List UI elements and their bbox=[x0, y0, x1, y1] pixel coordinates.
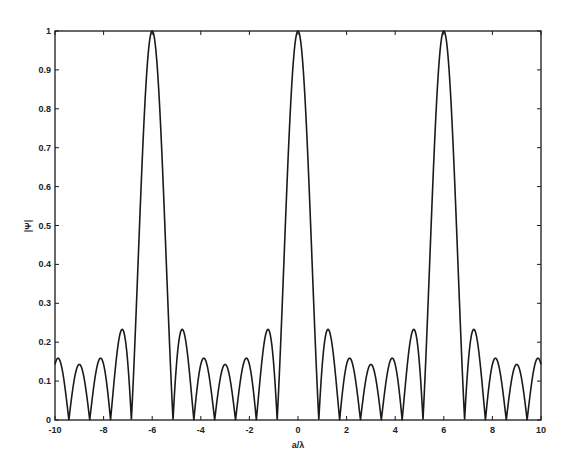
x-tick-label: -10 bbox=[48, 425, 61, 435]
x-tick-label: 2 bbox=[344, 425, 349, 435]
x-tick-label: 4 bbox=[393, 425, 398, 435]
y-tick-label: 0.3 bbox=[38, 298, 51, 308]
x-axis: -10-8-6-4-20246810 bbox=[48, 31, 546, 435]
chart: -10-8-6-4-20246810 00.10.20.30.40.50.60.… bbox=[0, 0, 571, 468]
y-axis: 00.10.20.30.40.50.60.70.80.91 bbox=[38, 26, 541, 425]
x-tick-label: 8 bbox=[490, 425, 495, 435]
x-axis-label: a/λ bbox=[292, 440, 305, 450]
y-tick-label: 0.2 bbox=[38, 337, 51, 347]
y-tick-label: 0.6 bbox=[38, 182, 51, 192]
y-tick-label: 0.9 bbox=[38, 65, 51, 75]
x-tick-label: -8 bbox=[100, 425, 108, 435]
y-tick-label: 0.1 bbox=[38, 376, 51, 386]
x-tick-label: -6 bbox=[148, 425, 156, 435]
x-tick-label: -2 bbox=[245, 425, 253, 435]
y-tick-label: 0.5 bbox=[38, 221, 51, 231]
y-tick-label: 0.8 bbox=[38, 104, 51, 114]
data-line bbox=[55, 31, 541, 420]
y-tick-label: 0.7 bbox=[38, 143, 51, 153]
y-tick-label: 0 bbox=[46, 415, 51, 425]
x-tick-label: 10 bbox=[536, 425, 546, 435]
x-tick-label: 6 bbox=[441, 425, 446, 435]
y-tick-label: 0.4 bbox=[38, 259, 51, 269]
y-tick-label: 1 bbox=[46, 26, 51, 36]
y-axis-label: |Ψ| bbox=[23, 220, 33, 232]
x-tick-label: 0 bbox=[295, 425, 300, 435]
x-tick-label: -4 bbox=[197, 425, 205, 435]
